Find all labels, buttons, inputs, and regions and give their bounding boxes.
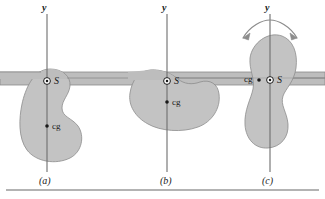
physics-figure: y y y S S S cg cg cg (a) (b) (c)	[0, 0, 325, 199]
panel-c-cg-dot	[257, 78, 261, 82]
panel-b-pivot-dot	[166, 80, 169, 83]
panel-b-cg-label: cg	[172, 98, 181, 107]
panel-label-c: (c)	[262, 176, 273, 186]
panel-c-pivot-label: S	[277, 75, 282, 85]
panel-c-axis-label: y	[265, 3, 269, 13]
panel-a-cg-dot	[45, 124, 49, 128]
panel-label-a: (a)	[39, 176, 51, 186]
panel-a-axis-label: y	[42, 3, 46, 13]
panel-b-axis-label: y	[162, 3, 166, 13]
panel-b-pivot-label: S	[174, 76, 179, 86]
panel-a-pivot-marker	[44, 78, 51, 85]
panel-c-pivot-marker	[267, 77, 274, 84]
figure-canvas	[0, 0, 325, 199]
panel-c-blob	[245, 35, 297, 148]
panel-c-pivot-dot	[269, 79, 272, 82]
panel-label-b: (b)	[160, 176, 172, 186]
panel-c-cg-label: cg	[244, 75, 253, 84]
panel-c-body	[245, 35, 297, 148]
panel-b-pivot-marker	[164, 78, 171, 85]
panel-a-cg-label: cg	[52, 122, 61, 131]
panel-b-cg-dot	[165, 100, 169, 104]
panel-a-pivot-dot	[46, 80, 49, 83]
panel-a-pivot-label: S	[54, 76, 59, 86]
